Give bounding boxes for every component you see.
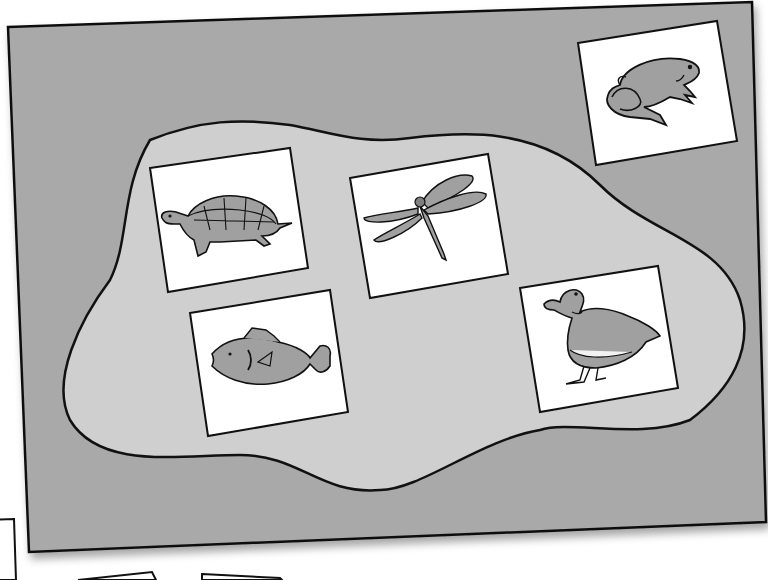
card-dragonfly[interactable] xyxy=(350,154,508,298)
loose-card-bottom-1[interactable] xyxy=(78,572,156,580)
card-fish[interactable] xyxy=(190,290,348,436)
loose-card-bottom-2[interactable] xyxy=(202,574,282,580)
card-duck[interactable] xyxy=(520,266,678,412)
habitat-board-scene: Frog xyxy=(0,0,768,580)
card-turtle[interactable] xyxy=(150,148,308,292)
loose-card-left[interactable] xyxy=(0,519,16,580)
